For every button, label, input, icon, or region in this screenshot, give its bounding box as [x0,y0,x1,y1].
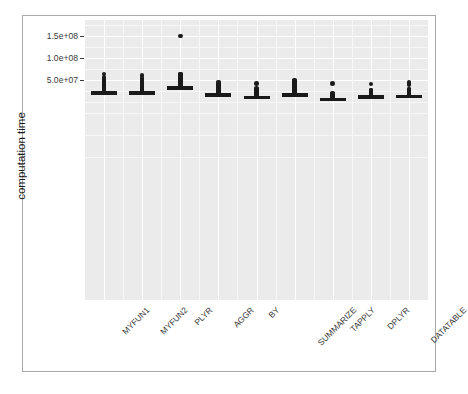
grid-line-major-x [295,20,296,300]
y-tick-label: 5.0e+07 [26,75,78,85]
grid-line-minor-x [352,20,353,300]
outlier-point [178,72,183,77]
y-tick-mark [80,36,84,37]
y-tick-mark [80,80,84,81]
grid-line-minor-x [237,20,238,300]
grid-line-major-x [142,20,143,300]
y-axis-label: computation time [15,71,27,241]
grid-line-minor-x [276,20,277,300]
x-tick-label-dplyr: DPLYR [385,305,411,331]
y-tick: 1.0e+08 [26,53,78,63]
x-tick-label-myfun1: MYFUN1 [120,305,151,336]
x-tick-label-myfun2: MYFUN2 [158,305,189,336]
grid-line-major-x [409,20,410,300]
outlier-point [254,81,259,86]
x-tick-label-aggr: AGGR [232,305,257,330]
grid-line-minor-x [390,20,391,300]
grid-line-major-x [218,20,219,300]
y-tick: 5.0e+07 [26,75,78,85]
grid-line-major-x [257,20,258,300]
grid-line-minor-x [161,20,162,300]
grid-line-minor-x [123,20,124,300]
outlier-point [254,86,259,91]
grid-line-minor-x [199,20,200,300]
outlier-point [292,78,297,83]
grid-line-major-x [180,20,181,300]
grid-line-minor-x [314,20,315,300]
grid-line-major-x [104,20,105,300]
x-tick-label-datatable: DATATABLE [429,305,468,345]
grid-line-major-x [371,20,372,300]
y-tick-label: 1.0e+08 [26,53,78,63]
outlier-point [407,80,412,85]
x-tick-label-plyr: PLYR [192,305,214,327]
y-tick-mark [80,58,84,59]
outlier-point [330,81,335,86]
grid-line-major-x [333,20,334,300]
x-tick-label-by: BY [266,305,281,320]
outlier-point [178,34,183,39]
y-tick: 1.5e+08 [26,31,78,41]
y-tick-label: 1.5e+08 [26,31,78,41]
